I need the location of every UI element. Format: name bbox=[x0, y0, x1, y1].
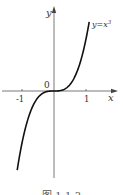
curve-label-exponent: 3 bbox=[108, 19, 112, 25]
x-axis-label: x bbox=[108, 92, 114, 103]
y-axis-label: y bbox=[45, 7, 52, 18]
tick-label-neg1: -1 bbox=[16, 94, 24, 104]
curve-label: y=x3 bbox=[91, 19, 112, 29]
origin-label: 0 bbox=[44, 80, 50, 90]
y-axis-arrow-icon bbox=[52, 6, 56, 13]
tick-label-pos1: 1 bbox=[84, 94, 89, 104]
cubic-curve bbox=[17, 22, 89, 170]
figure-caption: 图 1-1-3 bbox=[0, 187, 123, 195]
cubic-function-plot: y x 0 -1 1 y=x3 bbox=[0, 0, 123, 195]
